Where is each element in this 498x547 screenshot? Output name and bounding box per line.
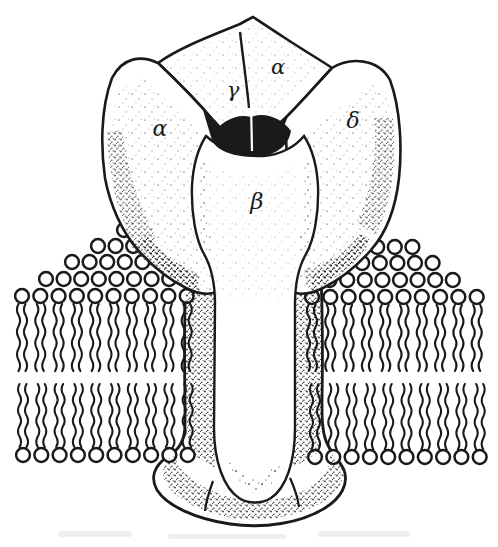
- channel-pore-line: [251, 103, 252, 151]
- figure-page: α γ α δ β: [0, 0, 498, 547]
- label-delta: δ: [346, 108, 359, 133]
- label-alpha-left: α: [153, 116, 168, 141]
- scan-artifacts: [58, 531, 410, 539]
- label-alpha-top: α: [271, 55, 285, 79]
- receptor-membrane-diagram: α γ α δ β: [0, 0, 498, 547]
- label-beta: β: [249, 188, 263, 214]
- label-gamma: γ: [227, 78, 240, 102]
